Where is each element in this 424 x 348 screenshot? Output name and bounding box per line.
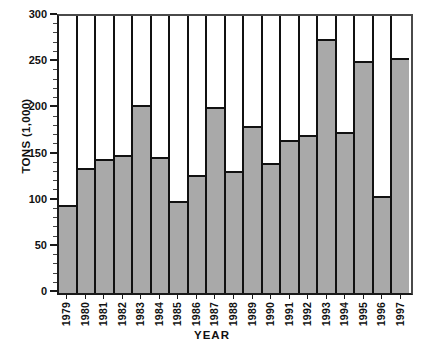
x-tick [326, 293, 327, 299]
y-tick-major [50, 59, 57, 61]
bar-slot [374, 16, 393, 293]
x-tick-label-1982: 1982 [116, 302, 128, 326]
x-tick-label-1997: 1997 [394, 302, 406, 326]
x-tick [103, 293, 104, 299]
x-tick [140, 293, 141, 299]
bar-slot [337, 16, 356, 293]
y-tick-major [50, 198, 57, 200]
x-tick [214, 293, 215, 299]
x-tick [66, 293, 67, 299]
bar-slot [318, 16, 337, 293]
bar-1996[interactable] [374, 196, 391, 293]
bar-1987[interactable] [207, 107, 224, 293]
bar-slot [244, 16, 263, 293]
x-tick-label-1991: 1991 [283, 302, 295, 326]
y-tick-label: 300 [29, 8, 47, 20]
bar-1994[interactable] [337, 132, 354, 293]
y-tick-label: 0 [41, 285, 47, 297]
x-tick-label-1995: 1995 [357, 302, 369, 326]
bar-1989[interactable] [244, 126, 261, 293]
bar-slot [78, 16, 97, 293]
y-tick-label: 250 [29, 54, 47, 66]
bar-1984[interactable] [152, 157, 169, 293]
y-tick-label: 50 [35, 239, 47, 251]
x-tick [400, 293, 401, 299]
x-tick [196, 293, 197, 299]
x-tick-label-1989: 1989 [246, 302, 258, 326]
x-tick [252, 293, 253, 299]
bar-1980[interactable] [78, 168, 95, 293]
bar-1991[interactable] [281, 140, 298, 293]
x-tick-label-1980: 1980 [79, 302, 91, 326]
x-tick-label-1986: 1986 [190, 302, 202, 326]
y-tick-label: 100 [29, 193, 47, 205]
y-tick-major [50, 244, 57, 246]
bar-1979[interactable] [59, 205, 76, 293]
bar-slot [281, 16, 300, 293]
bar-slot [226, 16, 245, 293]
bar-slot [59, 16, 78, 293]
bar-slot [133, 16, 152, 293]
bar-slot [355, 16, 374, 293]
bar-1997[interactable] [392, 58, 409, 293]
bar-1990[interactable] [263, 163, 280, 293]
x-axis-title: YEAR [0, 329, 424, 341]
bar-slot [300, 16, 319, 293]
x-tick [233, 293, 234, 299]
bar-1993[interactable] [318, 39, 335, 293]
x-tick [289, 293, 290, 299]
x-tick [344, 293, 345, 299]
bar-1988[interactable] [226, 171, 243, 293]
plot-area [57, 14, 413, 295]
bar-1985[interactable] [170, 201, 187, 293]
bar-1992[interactable] [300, 135, 317, 293]
y-tick-label: 150 [29, 147, 47, 159]
x-tick [270, 293, 271, 299]
x-tick-label-1985: 1985 [171, 302, 183, 326]
bar-1995[interactable] [355, 61, 372, 293]
bar-slot [152, 16, 171, 293]
y-axis: 050100150200250300 [0, 0, 57, 293]
bar-slot [189, 16, 208, 293]
bar-slot [170, 16, 189, 293]
x-tick-label-1981: 1981 [97, 302, 109, 326]
x-tick [381, 293, 382, 299]
x-tick-label-1994: 1994 [338, 302, 350, 326]
x-tick-label-1983: 1983 [134, 302, 146, 326]
bar-1981[interactable] [96, 159, 113, 293]
y-tick-major [50, 152, 57, 154]
bar-chart: TONS (1,000) 050100150200250300 19791980… [0, 0, 424, 348]
bar-slot [392, 16, 411, 293]
x-tick-label-1979: 1979 [60, 302, 72, 326]
bar-1986[interactable] [189, 175, 206, 293]
x-tick-label-1990: 1990 [264, 302, 276, 326]
x-tick-label-1987: 1987 [208, 302, 220, 326]
x-tick-label-1984: 1984 [153, 302, 165, 326]
y-tick-major [50, 13, 57, 15]
bar-slot [207, 16, 226, 293]
bar-slot [115, 16, 134, 293]
x-tick-label-1996: 1996 [375, 302, 387, 326]
x-tick [122, 293, 123, 299]
y-tick-major [50, 290, 57, 292]
bar-1983[interactable] [133, 105, 150, 293]
y-tick-label: 200 [29, 100, 47, 112]
bars-layer [59, 16, 411, 293]
x-tick-label-1992: 1992 [301, 302, 313, 326]
x-tick [159, 293, 160, 299]
bar-slot [96, 16, 115, 293]
x-tick [177, 293, 178, 299]
bar-slot [263, 16, 282, 293]
x-tick [307, 293, 308, 299]
x-tick [85, 293, 86, 299]
x-tick-label-1993: 1993 [320, 302, 332, 326]
x-tick-label-1988: 1988 [227, 302, 239, 326]
bar-1982[interactable] [115, 155, 132, 294]
y-tick-major [50, 105, 57, 107]
x-tick [363, 293, 364, 299]
